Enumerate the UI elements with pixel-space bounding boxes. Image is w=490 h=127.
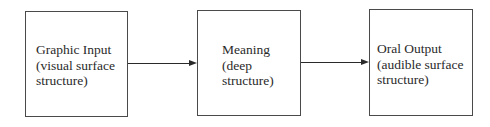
label-line: structure): [36, 73, 115, 89]
oral-output-label: Oral Output (audible surface structure): [377, 41, 464, 88]
label-line: Oral Output: [377, 41, 464, 57]
label-line: (deep: [222, 58, 274, 74]
arrowhead-icon: [361, 59, 369, 65]
arrow-meaning-to-output: [301, 62, 362, 63]
graphic-input-label: Graphic Input (visual surface structure): [36, 42, 115, 89]
label-line: (visual surface: [36, 58, 115, 74]
label-line: Graphic Input: [36, 42, 115, 58]
label-line: Meaning: [222, 42, 274, 58]
arrow-input-to-meaning: [128, 63, 190, 64]
arrowhead-icon: [189, 60, 197, 66]
meaning-label: Meaning (deep structure): [222, 42, 274, 89]
label-line: structure): [222, 73, 274, 89]
label-line: structure): [377, 72, 464, 88]
label-line: (audible surface: [377, 57, 464, 73]
